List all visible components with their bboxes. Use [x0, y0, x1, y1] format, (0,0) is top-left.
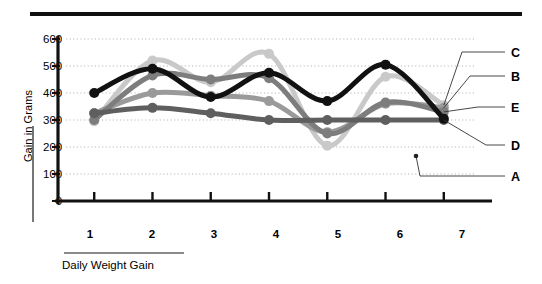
data-point: [264, 115, 274, 125]
series-layer: [89, 49, 449, 151]
data-point: [322, 141, 332, 151]
data-point: [264, 68, 274, 78]
leader-line-b: [444, 76, 505, 108]
data-point: [381, 97, 391, 107]
data-point: [381, 60, 391, 70]
data-point: [147, 88, 157, 98]
leader-lines-group: [414, 52, 505, 176]
chart-container: Gain in Grams Daily Weight Gain 600 500 …: [0, 0, 542, 284]
data-point: [322, 115, 332, 125]
data-point: [89, 88, 99, 98]
data-point: [264, 49, 274, 59]
series-b: [89, 88, 449, 137]
data-point: [89, 108, 99, 118]
annotation-anchor-a: [414, 154, 419, 159]
data-point: [322, 96, 332, 106]
data-point: [322, 129, 332, 139]
plot-area: [0, 0, 542, 284]
data-point: [206, 75, 216, 85]
data-point: [206, 92, 216, 102]
data-point: [381, 72, 391, 82]
data-point: [147, 103, 157, 113]
series-d: [89, 103, 449, 125]
data-point: [264, 96, 274, 106]
leader-line-a: [416, 156, 505, 176]
leader-line-d: [444, 120, 505, 145]
data-point: [381, 115, 391, 125]
data-point: [147, 64, 157, 74]
series-a: [89, 60, 449, 124]
leader-line-e: [444, 107, 505, 112]
data-point: [206, 108, 216, 118]
